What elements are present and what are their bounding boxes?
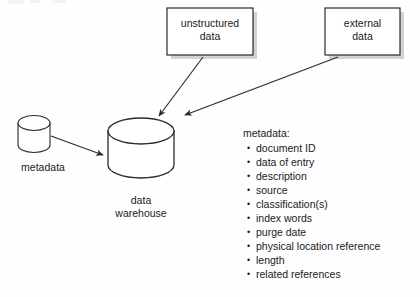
- metadata-cylinder-label: metadata: [4, 161, 82, 174]
- metadata-attribute-item: source: [256, 183, 415, 197]
- metadata-attributes-panel: metadata: document IDdata of entrydescri…: [243, 126, 415, 281]
- metadata-attribute-item: document ID: [256, 141, 415, 155]
- unstructured-data-box-label: unstructured data: [167, 17, 253, 43]
- data-warehouse-label: data warehouse: [101, 194, 181, 219]
- metadata-attribute-item: index words: [256, 211, 415, 225]
- metadata-attribute-item: length: [256, 253, 415, 267]
- metadata-attribute-item: purge date: [256, 225, 415, 239]
- metadata-attribute-item: related references: [256, 267, 415, 281]
- diagram-canvas: unstructured data external data metadata…: [0, 0, 420, 297]
- metadata-attribute-item: data of entry: [256, 155, 415, 169]
- flow-arrow-metadata-to-warehouse: [51, 136, 103, 155]
- metadata-cylinder: [18, 116, 50, 153]
- metadata-attribute-item: physical location reference: [256, 239, 415, 253]
- metadata-attribute-item: classification(s): [256, 197, 415, 211]
- external-data-box-label: external data: [325, 17, 400, 43]
- metadata-attribute-list: document IDdata of entrydescriptionsourc…: [243, 141, 415, 281]
- flow-arrow-external-to-warehouse: [185, 57, 338, 115]
- flow-arrow-unstructured-to-warehouse: [159, 57, 203, 116]
- metadata-attribute-item: description: [256, 169, 415, 183]
- data-warehouse-cylinder: [108, 118, 174, 178]
- metadata-list-heading: metadata:: [243, 126, 415, 140]
